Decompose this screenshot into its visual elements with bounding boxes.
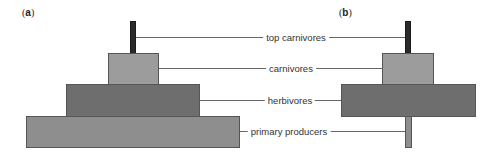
pyramid-b-herbivores-bar (341, 84, 476, 117)
pyramid-b-carnivores-bar (382, 53, 434, 85)
paren-close: ) (348, 7, 351, 18)
pyramid-a-carnivores-bar (108, 53, 159, 85)
label-primary-producers: primary producers (248, 126, 331, 137)
pyramid-b-primary-producers-bar (405, 116, 412, 148)
paren-close: ) (31, 7, 34, 18)
panel-label-b: (b) (339, 7, 352, 18)
label-carnivores: carnivores (266, 63, 316, 74)
pyramid-a-herbivores-bar (66, 84, 200, 117)
pyramid-b-top-carnivores-bar (405, 21, 411, 54)
pyramid-a-primary-producers-bar (26, 116, 240, 148)
panel-label-a: (a) (22, 7, 34, 18)
label-herbivores: herbivores (265, 95, 315, 106)
label-top-carnivores: top carnivores (263, 32, 329, 43)
pyramid-a-top-carnivores-bar (130, 21, 136, 54)
